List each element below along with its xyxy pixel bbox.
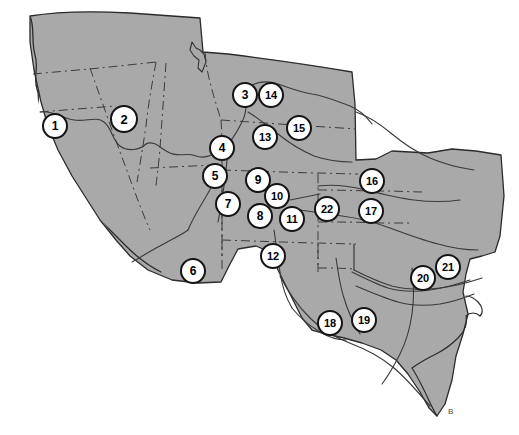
site-marker-18-label: 18 [324, 317, 336, 328]
site-marker-6[interactable]: 6 [180, 258, 206, 284]
site-marker-14-label: 14 [265, 89, 277, 100]
corner-annotation-mark: B [448, 407, 453, 416]
site-marker-6-label: 6 [190, 265, 197, 277]
site-marker-21-label: 21 [442, 261, 454, 272]
site-marker-19[interactable]: 19 [351, 307, 377, 333]
site-marker-2-label: 2 [120, 112, 127, 125]
site-marker-9-label: 9 [255, 174, 262, 186]
site-marker-14[interactable]: 14 [258, 82, 284, 108]
site-marker-11-label: 11 [286, 213, 298, 224]
site-marker-19-label: 19 [358, 314, 370, 325]
location-map-figure: 1 2 3 4 5 6 7 8 9 10 11 [0, 0, 519, 435]
site-marker-10-label: 10 [271, 190, 283, 201]
site-marker-2[interactable]: 2 [110, 105, 138, 133]
site-marker-20-label: 20 [417, 272, 429, 283]
site-marker-16-label: 16 [366, 175, 378, 186]
site-marker-7[interactable]: 7 [215, 191, 241, 217]
site-marker-20[interactable]: 20 [410, 265, 436, 291]
site-marker-13-label: 13 [259, 131, 271, 142]
site-marker-12[interactable]: 12 [260, 243, 286, 269]
site-marker-12-label: 12 [267, 250, 279, 261]
site-marker-8-label: 8 [257, 210, 264, 222]
site-marker-18[interactable]: 18 [317, 310, 343, 336]
site-marker-17[interactable]: 17 [358, 198, 384, 224]
site-marker-4[interactable]: 4 [209, 135, 235, 161]
site-marker-1[interactable]: 1 [42, 113, 68, 139]
site-marker-17-label: 17 [365, 205, 377, 216]
site-marker-16[interactable]: 16 [359, 168, 385, 194]
site-marker-10[interactable]: 10 [264, 183, 290, 209]
site-marker-3[interactable]: 3 [232, 82, 258, 108]
site-marker-7-label: 7 [225, 198, 232, 210]
site-marker-22[interactable]: 22 [314, 196, 340, 222]
site-marker-21[interactable]: 21 [435, 254, 461, 280]
site-marker-5-label: 5 [212, 170, 219, 182]
site-marker-15-label: 15 [293, 122, 305, 133]
site-marker-15[interactable]: 15 [286, 115, 312, 141]
site-marker-5[interactable]: 5 [202, 163, 228, 189]
site-marker-4-label: 4 [219, 142, 226, 154]
site-marker-13[interactable]: 13 [252, 124, 278, 150]
site-marker-22-label: 22 [321, 203, 333, 214]
site-marker-layer: 1 2 3 4 5 6 7 8 9 10 11 [0, 0, 519, 435]
site-marker-1-label: 1 [52, 120, 59, 132]
site-marker-11[interactable]: 11 [279, 206, 305, 232]
site-marker-3-label: 3 [242, 89, 249, 101]
